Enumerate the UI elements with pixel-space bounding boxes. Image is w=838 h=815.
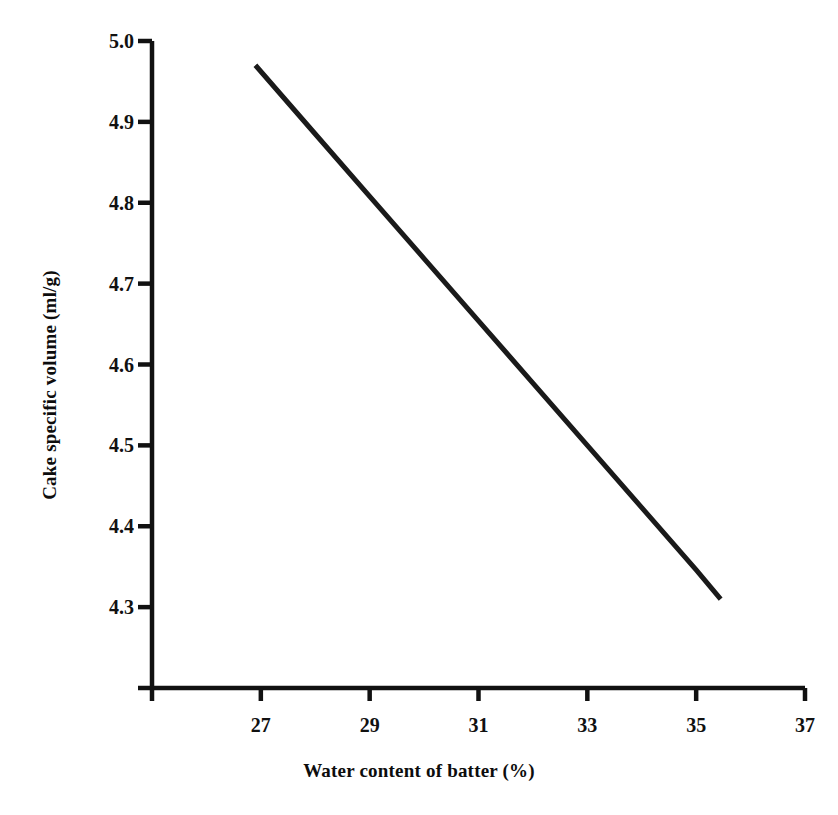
x-axis-title: Water content of batter (%)	[0, 760, 838, 782]
x-axis-tick-label: 35	[666, 714, 726, 737]
chart-figure: 5.04.94.84.74.64.54.44.3 272931333537 Ca…	[0, 0, 838, 815]
y-axis-title: Cake specific volume (ml/g)	[39, 270, 61, 500]
y-axis-tick-label: 4.5	[74, 434, 134, 457]
axes-layer	[138, 41, 805, 701]
x-axis-tick-label: 27	[231, 714, 291, 737]
data-line-series-0	[255, 65, 720, 599]
y-axis-tick-label: 4.8	[74, 191, 134, 214]
y-axis-tick-label: 4.7	[74, 272, 134, 295]
data-series-layer	[255, 65, 720, 599]
x-axis-tick-label: 29	[340, 714, 400, 737]
x-axis-tick-label: 37	[775, 714, 835, 737]
y-axis-tick-label: 5.0	[74, 30, 134, 53]
y-axis-title-container: Cake specific volume (ml/g)	[39, 125, 69, 645]
y-axis-tick-label: 4.6	[74, 353, 134, 376]
x-axis-tick-label: 33	[557, 714, 617, 737]
y-axis-tick-label: 4.3	[74, 596, 134, 619]
y-axis-tick-label: 4.9	[74, 110, 134, 133]
y-axis-tick-label: 4.4	[74, 515, 134, 538]
x-axis-tick-label: 31	[449, 714, 509, 737]
